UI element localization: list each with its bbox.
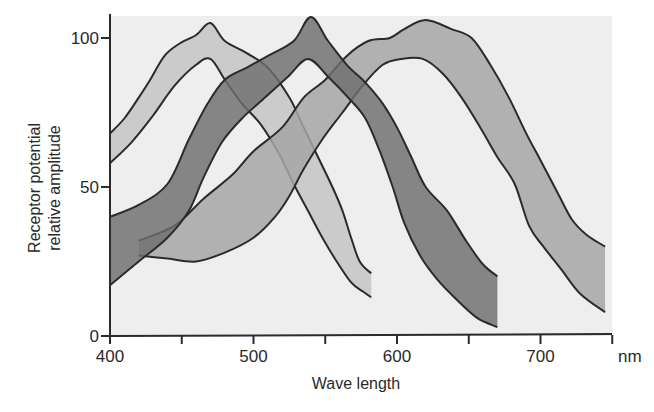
svg-text:relative amplitude: relative amplitude <box>46 125 63 251</box>
x-ticks: 400500600700 <box>96 335 612 366</box>
y-tick-label: 50 <box>80 178 99 197</box>
x-axis-unit: nm <box>618 347 642 366</box>
x-tick-label: 500 <box>239 347 267 366</box>
x-axis-title: Wave length <box>312 375 400 392</box>
y-ticks: 050100 <box>71 29 110 346</box>
x-tick-label: 700 <box>526 347 554 366</box>
y-tick-label: 0 <box>90 327 99 346</box>
spectral-sensitivity-chart: 050100 400500600700 nm Wave length Recep… <box>0 0 654 412</box>
y-axis-title: Receptor potential relative amplitude <box>26 123 63 253</box>
y-tick-label: 100 <box>71 29 99 48</box>
svg-text:Receptor potential: Receptor potential <box>26 123 43 253</box>
x-tick-label: 600 <box>383 347 411 366</box>
x-tick-label: 400 <box>96 347 124 366</box>
